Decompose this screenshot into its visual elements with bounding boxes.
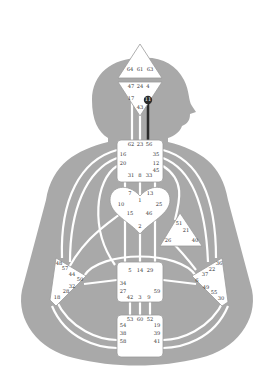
svg-text:37: 37 — [202, 271, 209, 277]
svg-text:44: 44 — [69, 271, 76, 277]
svg-text:40: 40 — [192, 237, 199, 243]
svg-text:15: 15 — [127, 210, 134, 216]
svg-text:56: 56 — [146, 141, 153, 147]
svg-text:63: 63 — [147, 66, 154, 72]
svg-text:16: 16 — [120, 151, 127, 157]
svg-text:61: 61 — [137, 66, 144, 72]
svg-text:50: 50 — [77, 276, 84, 282]
svg-text:31: 31 — [128, 172, 135, 178]
svg-text:36: 36 — [216, 260, 223, 266]
svg-text:8: 8 — [138, 172, 141, 178]
svg-text:26: 26 — [165, 237, 172, 243]
svg-text:34: 34 — [120, 280, 127, 286]
svg-text:25: 25 — [156, 201, 163, 207]
svg-text:2: 2 — [138, 223, 141, 229]
svg-text:53: 53 — [127, 316, 134, 322]
svg-text:28: 28 — [63, 288, 70, 294]
svg-text:33: 33 — [146, 172, 153, 178]
svg-text:43: 43 — [137, 104, 144, 110]
svg-text:17: 17 — [128, 95, 135, 101]
svg-text:11: 11 — [145, 96, 152, 102]
svg-text:9: 9 — [147, 294, 150, 300]
svg-text:64: 64 — [127, 66, 134, 72]
svg-text:10: 10 — [118, 201, 125, 207]
svg-text:1: 1 — [138, 197, 141, 203]
svg-text:58: 58 — [120, 338, 127, 344]
svg-text:6: 6 — [195, 277, 198, 283]
svg-text:52: 52 — [147, 316, 154, 322]
svg-text:59: 59 — [154, 288, 161, 294]
svg-text:14: 14 — [137, 267, 144, 273]
svg-text:29: 29 — [147, 267, 154, 273]
svg-text:51: 51 — [176, 220, 183, 226]
svg-text:19: 19 — [154, 322, 161, 328]
svg-text:47: 47 — [128, 83, 135, 89]
svg-text:35: 35 — [153, 151, 160, 157]
svg-text:24: 24 — [137, 83, 144, 89]
svg-text:12: 12 — [153, 160, 160, 166]
svg-text:45: 45 — [153, 167, 160, 173]
throat-center: 62 23 56 16 35 20 12 45 31 8 33 — [117, 140, 163, 182]
svg-text:27: 27 — [120, 288, 127, 294]
sacral-center: 5 14 29 34 27 59 42 3 9 — [117, 262, 163, 302]
svg-text:7: 7 — [128, 190, 131, 196]
svg-text:23: 23 — [137, 141, 144, 147]
bodygraph: 64 61 63 47 24 4 17 11 43 62 23 56 16 35… — [0, 0, 274, 383]
svg-text:39: 39 — [154, 330, 161, 336]
svg-text:60: 60 — [137, 316, 144, 322]
svg-text:3: 3 — [138, 294, 141, 300]
svg-text:55: 55 — [211, 289, 218, 295]
svg-text:54: 54 — [120, 322, 127, 328]
svg-text:38: 38 — [120, 330, 127, 336]
svg-text:41: 41 — [154, 338, 161, 344]
svg-text:5: 5 — [128, 267, 131, 273]
svg-text:62: 62 — [128, 141, 135, 147]
svg-text:32: 32 — [69, 283, 76, 289]
svg-text:13: 13 — [147, 190, 154, 196]
svg-text:22: 22 — [209, 266, 216, 272]
svg-text:30: 30 — [218, 295, 225, 301]
svg-text:49: 49 — [203, 284, 210, 290]
svg-text:46: 46 — [146, 210, 153, 216]
svg-text:20: 20 — [120, 160, 127, 166]
svg-text:21: 21 — [183, 227, 190, 233]
root-center: 53 60 52 54 19 38 39 58 41 — [117, 315, 163, 357]
svg-text:18: 18 — [54, 294, 61, 300]
svg-text:57: 57 — [62, 265, 69, 271]
svg-text:42: 42 — [127, 294, 134, 300]
